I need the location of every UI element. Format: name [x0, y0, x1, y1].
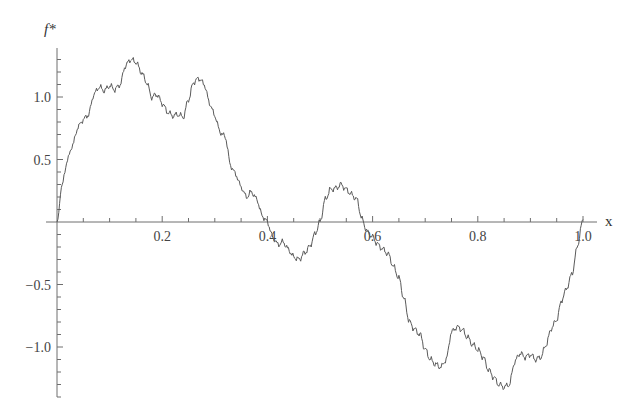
x-axis-title: x	[605, 213, 613, 229]
x-tick-label: 0.4	[259, 229, 277, 244]
y-ticks-group	[57, 60, 63, 398]
x-tick-label: 1.0	[574, 229, 592, 244]
x-tick-label: 0.8	[469, 229, 487, 244]
y-axis-title: f*	[44, 21, 56, 37]
y-tick-label: −0.5	[26, 278, 51, 293]
x-tick-labels-group: 0.20.40.60.81.0	[153, 229, 591, 244]
x-tick-label: 0.6	[364, 229, 382, 244]
x-tick-label: 0.2	[153, 229, 171, 244]
y-tick-label: 0.5	[34, 153, 52, 168]
series-line-f-star	[57, 58, 583, 390]
x-ticks-group	[83, 216, 583, 222]
axes-group	[46, 48, 597, 397]
y-tick-label: −1.0	[26, 340, 51, 355]
y-tick-label: 1.0	[34, 90, 52, 105]
chart-plot-area: 0.20.40.60.81.0 1.00.5−0.5−1.0 x f*	[0, 0, 634, 416]
